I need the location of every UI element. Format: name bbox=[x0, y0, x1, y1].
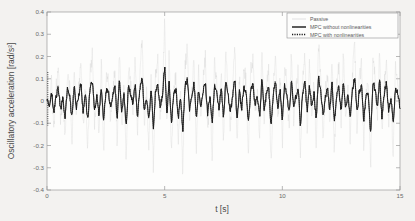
y-tick-label: -0.4 bbox=[33, 186, 44, 193]
y-tick-label: 0.3 bbox=[35, 30, 44, 37]
figure-container: 0.40.30.20.10-0.1-0.2-0.3-0.4 051015 t [… bbox=[0, 0, 415, 221]
legend-label-passive: Passive bbox=[310, 16, 328, 22]
y-tick-label: -0.3 bbox=[33, 164, 44, 171]
y-tick-label: -0.1 bbox=[33, 119, 44, 126]
x-tick-label: 10 bbox=[279, 192, 286, 199]
x-axis-label: t [s] bbox=[215, 204, 229, 214]
x-tick-label: 15 bbox=[397, 192, 404, 199]
x-tick-label: 0 bbox=[45, 192, 49, 199]
y-tick-label: 0.2 bbox=[35, 53, 44, 60]
y-tick-label: 0 bbox=[41, 97, 45, 104]
legend-label-mpc-with: MPC with nonlinearities bbox=[310, 32, 365, 38]
y-axis-label: Oscillatory acceleration [rad/s²] bbox=[6, 43, 16, 160]
y-tick-label: 0.4 bbox=[35, 8, 44, 15]
oscillatory-acceleration-chart: 0.40.30.20.10-0.1-0.2-0.3-0.4 051015 t [… bbox=[0, 0, 415, 221]
y-tick-label: 0.1 bbox=[35, 75, 44, 82]
legend-label-mpc-without: MPC without nonlinearities bbox=[310, 24, 372, 30]
y-tick-label: -0.2 bbox=[33, 142, 44, 149]
x-tick-label: 5 bbox=[163, 192, 167, 199]
chart-legend: Passive MPC without nonlinearities MPC w… bbox=[287, 13, 398, 38]
